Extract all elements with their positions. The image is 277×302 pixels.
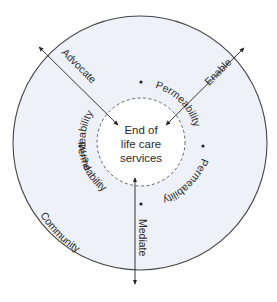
center-label-line-2: life care	[121, 138, 161, 150]
dot-top	[139, 80, 142, 83]
center-label-line-3: services	[120, 152, 162, 164]
community-diagram: Advocate Enable Mediate Permeability Per…	[0, 0, 277, 302]
center-label-line-1: End of	[124, 124, 158, 136]
mediate-label: Mediate	[137, 219, 149, 257]
dot-bottom	[139, 202, 142, 205]
dot-right	[201, 144, 204, 147]
